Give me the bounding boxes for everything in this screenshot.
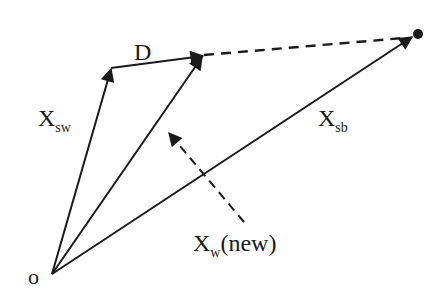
label-x-sb-sub: sb xyxy=(335,120,347,135)
label-x-sb: Xsb xyxy=(318,106,348,130)
dashed-pointer-arrow xyxy=(169,133,244,222)
vector-x-w-new xyxy=(52,57,202,274)
dashed-extension-line xyxy=(204,38,404,55)
label-x-w-main: X xyxy=(193,230,210,256)
label-x-sw-main: X xyxy=(38,105,55,131)
label-x-sb-main: X xyxy=(318,105,335,131)
label-x-sw-sub: sw xyxy=(55,120,71,135)
target-point-dot xyxy=(413,29,423,39)
vector-diagram: o D Xsw Xsb Xw(new) xyxy=(0,0,447,299)
label-d: D xyxy=(134,40,151,64)
label-origin: o xyxy=(28,266,39,288)
label-x-w-sub: w xyxy=(210,245,220,260)
vector-x-sw xyxy=(52,69,111,274)
label-x-sw: Xsw xyxy=(38,106,71,130)
label-x-w-new: Xw(new) xyxy=(193,231,276,255)
label-x-w-suffix: (new) xyxy=(220,230,276,256)
vector-d xyxy=(111,56,203,68)
